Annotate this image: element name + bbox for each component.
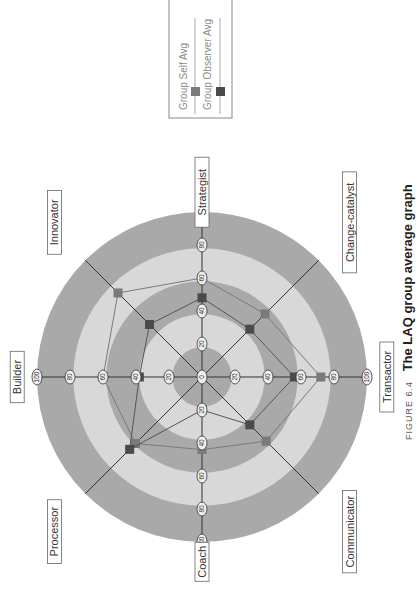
tick-marker: 100 <box>32 369 42 385</box>
legend-swatch-self-icon <box>191 87 200 96</box>
tick-label: 20 <box>165 373 172 381</box>
caption-prefix: FIGURE 6.4 <box>404 381 414 440</box>
data-point-square-icon <box>113 288 122 297</box>
axis-label-text: Builder <box>11 360 23 395</box>
tick-marker: 60 <box>197 271 207 285</box>
tick-label: 20 <box>198 340 205 348</box>
tick-label: 100 <box>33 371 40 382</box>
axis-label-transactor: Transactor <box>380 342 394 412</box>
legend-label-observer: Group Observer Avg <box>202 19 213 110</box>
tick-marker: 80 <box>197 238 207 252</box>
tick-label: 60 <box>99 373 106 381</box>
data-point-square-icon <box>245 420 254 429</box>
tick-marker: 40 <box>197 436 207 450</box>
axis-label-strategist: Strategist <box>195 157 209 227</box>
tick-marker: 0 <box>197 370 207 384</box>
data-point-square-icon <box>261 309 270 318</box>
tick-marker: 20 <box>197 403 207 417</box>
axis-label-text: Processor <box>48 507 60 557</box>
tick-label: 80 <box>330 373 337 381</box>
axis-label-builder: Builder <box>10 351 24 402</box>
tick-label: 100 <box>363 371 370 382</box>
tick-marker: 20 <box>230 370 240 384</box>
tick-label: 40 <box>264 373 271 381</box>
axis-label-text: Innovator <box>48 199 60 245</box>
axis-label-innovator: Innovator <box>47 190 61 254</box>
tick-marker: 60 <box>98 370 108 384</box>
legend-swatch-observer-icon <box>216 87 225 96</box>
svg-text:FIGURE 6.4 The LAQ group: FIGURE 6.4 The LAQ group average graph <box>400 184 415 440</box>
axis-label-text: Strategist <box>196 169 208 215</box>
tick-label: 20 <box>198 406 205 414</box>
caption-title: The LAQ group average graph <box>400 184 415 371</box>
axis-label-communicator: Communicator <box>343 490 357 572</box>
tick-marker: 60 <box>296 370 306 384</box>
tick-label: 40 <box>198 439 205 447</box>
tick-marker: 40 <box>263 370 273 384</box>
tick-marker: 80 <box>329 370 339 384</box>
tick-marker: 20 <box>197 337 207 351</box>
data-point-square-icon <box>145 320 154 329</box>
tick-marker: 40 <box>197 304 207 318</box>
tick-label: 0 <box>198 375 205 379</box>
legend: Group Self Avg Group Observer Avg <box>169 0 232 118</box>
data-point-square-icon <box>125 445 134 454</box>
axis-label-text: Transactor <box>381 351 393 404</box>
tick-label: 40 <box>198 307 205 315</box>
axis-label-processor: Processor <box>47 500 61 564</box>
tick-label: 80 <box>198 505 205 513</box>
data-point-square-icon <box>262 437 271 446</box>
tick-marker: 40 <box>131 370 141 384</box>
axis-label-coach: Coach <box>195 542 209 581</box>
tick-marker: 60 <box>197 469 207 483</box>
axis-label-text: Communicator <box>344 496 356 568</box>
tick-label: 20 <box>231 373 238 381</box>
axis-label-change-catalyst: Change-catalyst <box>343 172 357 273</box>
tick-label: 60 <box>297 373 304 381</box>
radar-chart: 0204060801002040608010020406080100204060… <box>0 0 418 596</box>
tick-label: 60 <box>198 472 205 480</box>
tick-marker: 80 <box>65 370 75 384</box>
data-point-square-icon <box>316 373 325 382</box>
tick-label: 80 <box>198 241 205 249</box>
data-point-square-icon <box>198 293 207 302</box>
tick-marker: 20 <box>164 370 174 384</box>
axis-label-text: Change-catalyst <box>344 183 356 263</box>
tick-marker: 100 <box>362 369 372 385</box>
legend-label-self: Group Self Avg <box>178 43 189 110</box>
axis-label-text: Coach <box>196 546 208 578</box>
tick-label: 80 <box>66 373 73 381</box>
data-point-square-icon <box>245 325 254 334</box>
tick-label: 40 <box>132 373 139 381</box>
tick-marker: 80 <box>197 502 207 516</box>
tick-label: 60 <box>198 274 205 282</box>
figure-caption: FIGURE 6.4 The LAQ group average graph <box>400 184 415 440</box>
